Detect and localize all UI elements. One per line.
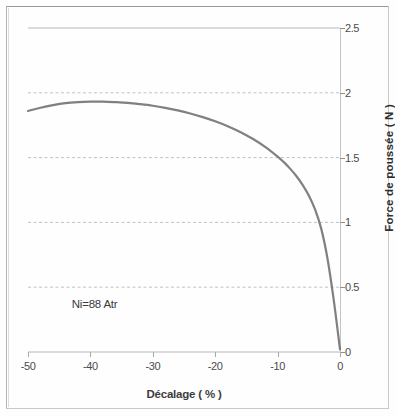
y-tick-label: 2.5 bbox=[345, 23, 359, 34]
x-tick-mark bbox=[278, 352, 279, 357]
x-tick-mark bbox=[340, 352, 341, 357]
x-tick-label: -50 bbox=[21, 360, 36, 372]
x-tick-label: -20 bbox=[208, 360, 223, 372]
x-tick-mark bbox=[90, 352, 91, 357]
y-tick-label: 1 bbox=[345, 217, 351, 228]
x-tick-mark bbox=[28, 352, 29, 357]
x-tick-label: -30 bbox=[145, 360, 160, 372]
y-tick-label: 2 bbox=[345, 87, 351, 98]
x-tick-mark bbox=[153, 352, 154, 357]
x-tick-label: -40 bbox=[83, 360, 98, 372]
y-tick-label: 1.5 bbox=[345, 152, 359, 163]
chart-annotation-ni: Ni=88 Atr bbox=[72, 298, 118, 310]
x-axis-title: Décalage ( % ) bbox=[0, 388, 368, 400]
y-axis-spine bbox=[340, 28, 341, 354]
x-tick-label: -10 bbox=[270, 360, 285, 372]
y-tick-label: 0.5 bbox=[345, 282, 359, 293]
x-tick-mark bbox=[215, 352, 216, 357]
y-tick-label: 0 bbox=[345, 347, 351, 358]
x-tick-label: 0 bbox=[337, 360, 343, 372]
chart-figure: 00.511.522.5 -50-40-30-20-100 Ni=88 Atr … bbox=[0, 0, 397, 417]
y-axis-title: Force de poussée ( N ) bbox=[383, 104, 395, 232]
